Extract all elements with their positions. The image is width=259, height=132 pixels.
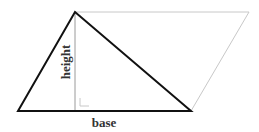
triangle-area-diagram: height base (0, 0, 259, 132)
right-angle-marker (80, 98, 89, 106)
triangle (18, 12, 191, 111)
height-label: height (58, 44, 73, 79)
parallelogram-outline (75, 12, 249, 111)
base-label: base (92, 115, 117, 130)
